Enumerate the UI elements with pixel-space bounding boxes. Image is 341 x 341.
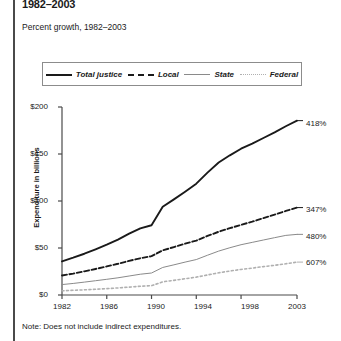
y-tick-label: $100 [14,196,48,205]
chart-note: Note: Does not include indirect expendit… [22,322,181,331]
series-line-state [62,234,297,284]
y-tick-label: $0 [14,290,48,299]
series-line-local [62,208,297,276]
y-axis-label: Expenditure in billions [32,128,41,248]
x-tick-label: 1990 [136,302,176,311]
x-tick-label: 1994 [183,302,223,311]
series-end-label-federal: 607% [306,258,326,267]
series-line-federal [62,262,297,291]
line-chart-svg [0,0,341,341]
x-tick-label: 1982 [42,302,82,311]
series-end-label-local: 347% [306,205,326,214]
chart-series [62,121,297,291]
x-tick-label: 1986 [89,302,129,311]
x-tick-label: 2003 [277,302,317,311]
series-end-label-state: 480% [306,232,326,241]
series-end-label-total-justice: 418% [306,119,326,128]
y-tick-label: $200 [14,102,48,111]
y-tick-label: $50 [14,243,48,252]
chart-plot-area: Expenditure in billions $200 $150 $100 $… [0,0,341,341]
y-tick-label: $150 [14,149,48,158]
x-tick-label: 1998 [230,302,270,311]
figure-panel: 1982–2003 Percent growth, 1982–2003 Tota… [0,0,341,341]
